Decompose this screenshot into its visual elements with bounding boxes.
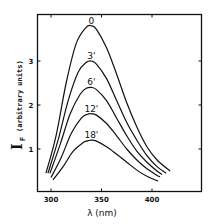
x-tick-label: 400 <box>145 196 160 204</box>
y-axis-symbol: I <box>9 143 25 150</box>
curve-label: 3' <box>87 51 95 61</box>
curve-label: 18' <box>84 130 98 140</box>
x-tick-label: 350 <box>94 196 109 204</box>
y-axis-title: I F (arbitrary units) <box>9 60 27 150</box>
y-axis-units: (arbitrary units) <box>16 60 24 132</box>
curve-18min <box>53 140 158 181</box>
curve-labels: 03'6'12'18' <box>84 16 98 140</box>
axis-ticks: 300350400123 <box>29 15 202 205</box>
curve-label: 12' <box>84 104 98 114</box>
y-tick-label: 1 <box>29 146 34 154</box>
curve-label: 0 <box>89 16 95 26</box>
curve-3min <box>48 61 166 173</box>
x-tick-label: 300 <box>44 196 59 204</box>
y-tick-label: 2 <box>29 102 34 110</box>
curves <box>46 25 170 181</box>
curve-label: 6' <box>87 77 95 87</box>
y-axis-subscript: F <box>19 137 27 141</box>
x-axis-title: λ (nm) <box>87 208 117 218</box>
fluorescence-chart: 300350400123 03'6'12'18' I F (arbitrary … <box>0 0 213 224</box>
y-tick-label: 3 <box>29 58 34 66</box>
